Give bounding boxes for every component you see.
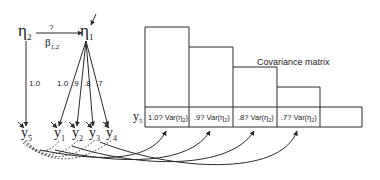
loading-y1: 1.0 bbox=[57, 80, 68, 88]
beta-sub: 1,2 bbox=[51, 43, 60, 51]
beta-label: β1,2 bbox=[45, 37, 59, 51]
indicator-symbol: y bbox=[21, 125, 28, 140]
indicator-symbol: y bbox=[89, 125, 96, 140]
eta2-label: η2 bbox=[18, 22, 31, 42]
indicator-symbol: y bbox=[72, 125, 79, 140]
indicator-sub: 5 bbox=[28, 134, 32, 143]
cell-coef: .9? Var(η bbox=[194, 113, 224, 122]
matrix-cell-1: 1.0? Var(η2) bbox=[148, 113, 188, 123]
loading-y5: 1.0 bbox=[29, 80, 40, 88]
indicator-sub: 2 bbox=[79, 134, 83, 143]
indicator-y4: y4 bbox=[106, 126, 117, 143]
indicator-y2: y2 bbox=[72, 126, 83, 143]
matrix-cell-3: .8? Var(η2) bbox=[238, 113, 274, 123]
matrix-title: Covariance matrix bbox=[257, 57, 330, 67]
cell-close: ) bbox=[186, 113, 189, 122]
cell-close: ) bbox=[314, 113, 317, 122]
loading-y2: .9 bbox=[72, 80, 79, 88]
matrix-cell-2: .9? Var(η2) bbox=[194, 113, 230, 123]
cell-close: ) bbox=[271, 113, 274, 122]
indicator-y1: y1 bbox=[54, 126, 65, 143]
loading-y3: .8 bbox=[84, 80, 91, 88]
eta1-symbol: η bbox=[80, 21, 89, 40]
row-label-sub: 5 bbox=[139, 117, 143, 125]
matrix-staircase bbox=[145, 27, 362, 127]
loading-y4: .7 bbox=[96, 80, 103, 88]
cell-coef: 1.0? Var(η bbox=[148, 113, 182, 122]
eta2-sub: 2 bbox=[27, 32, 32, 42]
cell-coef: .8? Var(η bbox=[238, 113, 268, 122]
indicator-symbol: y bbox=[106, 125, 113, 140]
indicator-sub: 1 bbox=[61, 134, 65, 143]
matrix-row-label: y5 bbox=[133, 110, 143, 125]
indicator-sub: 3 bbox=[96, 134, 100, 143]
cell-coef: .7? Var(η bbox=[281, 113, 311, 122]
indicator-y5: y5 bbox=[21, 126, 32, 143]
path-question: ? bbox=[49, 24, 53, 32]
indicator-symbol: y bbox=[54, 125, 61, 140]
cell-close: ) bbox=[227, 113, 230, 122]
eta1-sub: 1 bbox=[89, 32, 94, 42]
indicator-y3: y3 bbox=[89, 126, 100, 143]
matrix-cell-4: .7? Var(η2) bbox=[281, 113, 317, 123]
indicator-sub: 4 bbox=[113, 134, 117, 143]
diagram-canvas bbox=[0, 0, 380, 180]
eta2-symbol: η bbox=[18, 21, 27, 40]
eta1-label: η1 bbox=[80, 22, 93, 42]
